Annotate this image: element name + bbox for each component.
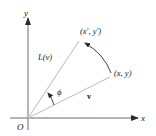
y-axis-label: y [23, 8, 28, 18]
original-point-label: (x, y) [114, 68, 132, 78]
x-axis-label: x [140, 113, 145, 123]
origin-label: O [17, 122, 24, 132]
original-vector-label: v [87, 91, 92, 101]
rotation-diagram: y x O (x′, y′) (x, y) L(v) v ϕ [0, 0, 156, 136]
angle-label: ϕ [57, 87, 62, 97]
vector-lv [28, 41, 79, 118]
angle-arc [48, 93, 54, 105]
rotated-vector-label: L(v) [37, 52, 52, 62]
rotated-point-label: (x′, y′) [80, 26, 101, 36]
rotation-arc [85, 43, 111, 73]
vector-v [28, 77, 110, 118]
